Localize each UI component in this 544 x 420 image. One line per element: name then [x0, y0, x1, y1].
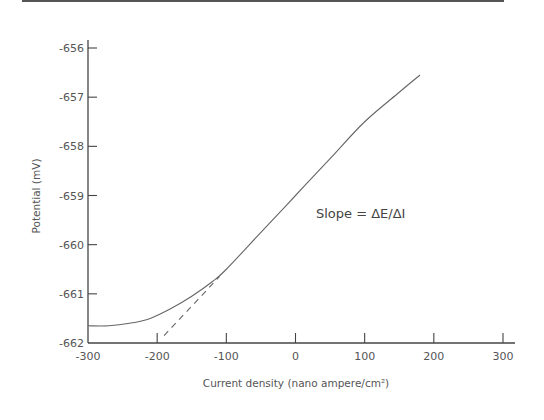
x-tick-label: 100 — [354, 350, 375, 363]
y-tick-label: -658 — [59, 140, 84, 153]
slope-annotation: Slope = ΔE/ΔI — [316, 206, 405, 221]
x-axis-title: Current density (nano ampere/cm²) — [203, 377, 389, 389]
x-tick-label: 0 — [292, 350, 299, 363]
ticks: -300-200-1000100200300-656-657-658-659-6… — [59, 42, 513, 363]
y-tick-label: -662 — [59, 337, 84, 350]
extrapolation-line — [164, 277, 219, 336]
x-tick-label: 300 — [493, 350, 514, 363]
chart-canvas: -300-200-1000100200300-656-657-658-659-6… — [0, 0, 544, 420]
x-tick-label: -200 — [145, 350, 170, 363]
y-tick-label: -656 — [59, 42, 84, 55]
y-tick-label: -657 — [59, 91, 84, 104]
y-tick-label: -661 — [59, 288, 84, 301]
y-axis-title: Potential (mV) — [30, 159, 42, 234]
y-tick-label: -659 — [59, 190, 84, 203]
x-tick-label: 200 — [423, 350, 444, 363]
axes — [88, 40, 515, 343]
x-tick-label: -300 — [76, 350, 101, 363]
polarization-curve — [88, 75, 420, 326]
y-tick-label: -660 — [59, 239, 84, 252]
x-tick-label: -100 — [214, 350, 239, 363]
